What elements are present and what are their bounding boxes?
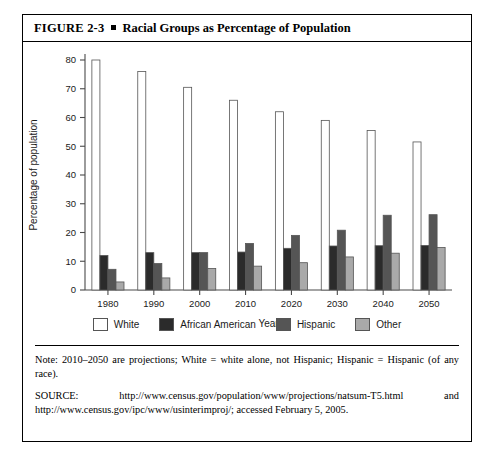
bar bbox=[230, 100, 238, 290]
source-paragraph: SOURCE: http://www.census.gov/population… bbox=[35, 389, 459, 417]
bar bbox=[192, 253, 200, 290]
chart-legend: WhiteAfrican AmericanHispanicOther bbox=[23, 318, 471, 331]
figure-title: Racial Groups as Percentage of Populatio… bbox=[122, 21, 350, 36]
x-tick-label: 2020 bbox=[281, 298, 302, 309]
x-tick-label: 1980 bbox=[97, 298, 118, 309]
x-tick-label: 2030 bbox=[327, 298, 348, 309]
bar bbox=[208, 268, 216, 290]
legend-swatch-icon bbox=[276, 318, 291, 331]
bar bbox=[154, 264, 162, 290]
bar bbox=[345, 257, 353, 290]
x-tick-label: 1990 bbox=[143, 298, 164, 309]
figure-header: FIGURE 2-3 Racial Groups as Percentage o… bbox=[23, 15, 471, 42]
legend-label: Other bbox=[376, 319, 401, 330]
bar bbox=[337, 230, 345, 290]
bar bbox=[138, 72, 146, 291]
x-tick-label: 2050 bbox=[418, 298, 439, 309]
bar bbox=[413, 142, 421, 290]
bar bbox=[116, 282, 124, 290]
bar bbox=[275, 112, 283, 290]
bar bbox=[429, 215, 437, 290]
legend-label: African American bbox=[180, 319, 256, 330]
x-tick-label: 2010 bbox=[235, 298, 256, 309]
bars-group bbox=[92, 60, 445, 290]
y-axis: 01020304050607080 bbox=[65, 54, 85, 295]
bar bbox=[184, 87, 192, 290]
legend-item-african-american: African American bbox=[159, 318, 256, 331]
y-tick-label: 60 bbox=[65, 112, 76, 123]
x-tick-label: 2000 bbox=[189, 298, 210, 309]
y-tick-label: 10 bbox=[65, 256, 76, 267]
y-tick-label: 70 bbox=[65, 83, 76, 94]
legend-item-other: Other bbox=[355, 318, 401, 331]
bar bbox=[383, 215, 391, 290]
note-paragraph: Note: 2010–2050 are projections; White =… bbox=[35, 353, 459, 381]
note-label: Note: bbox=[35, 354, 58, 365]
bar bbox=[367, 130, 375, 290]
bar bbox=[100, 256, 108, 291]
legend-item-hispanic: Hispanic bbox=[276, 318, 335, 331]
y-tick-label: 50 bbox=[65, 141, 76, 152]
legend-swatch-icon bbox=[93, 318, 108, 331]
legend-item-white: White bbox=[93, 318, 140, 331]
bar bbox=[246, 243, 254, 290]
x-axis: 19801990200020102020203020402050 bbox=[85, 290, 452, 309]
bar bbox=[238, 252, 246, 290]
legend-label: Hispanic bbox=[297, 319, 335, 330]
bar bbox=[200, 253, 208, 290]
square-bullet-icon bbox=[111, 25, 116, 30]
source-body: http://www.census.gov/population/www/pro… bbox=[35, 390, 459, 415]
y-tick-label: 30 bbox=[65, 198, 76, 209]
bar bbox=[162, 278, 170, 290]
bar bbox=[146, 253, 154, 290]
bar bbox=[291, 235, 299, 290]
figure-number: FIGURE 2-3 bbox=[34, 21, 104, 36]
note-body: 2010–2050 are projections; White = white… bbox=[35, 354, 459, 379]
y-tick-label: 0 bbox=[71, 284, 76, 295]
bar bbox=[283, 248, 291, 290]
bar bbox=[299, 263, 307, 290]
bar bbox=[391, 253, 399, 290]
y-tick-label: 40 bbox=[65, 169, 76, 180]
legend-swatch-icon bbox=[159, 318, 174, 331]
y-axis-title: Percentage of population bbox=[28, 119, 39, 230]
bar bbox=[254, 266, 262, 290]
x-tick-label: 2040 bbox=[373, 298, 394, 309]
bar bbox=[321, 120, 329, 290]
bar bbox=[329, 246, 337, 290]
bar-chart: 01020304050607080 1980199020002010202020… bbox=[23, 42, 470, 342]
notes-divider bbox=[35, 345, 459, 346]
y-tick-label: 80 bbox=[65, 54, 76, 65]
bar bbox=[375, 246, 383, 290]
y-tick-label: 20 bbox=[65, 227, 76, 238]
bar bbox=[437, 247, 445, 290]
bar bbox=[108, 269, 116, 290]
figure-container: FIGURE 2-3 Racial Groups as Percentage o… bbox=[22, 14, 472, 442]
legend-swatch-icon bbox=[355, 318, 370, 331]
bar bbox=[92, 60, 100, 290]
chart-area: 01020304050607080 1980199020002010202020… bbox=[23, 42, 471, 372]
bar bbox=[421, 245, 429, 290]
source-label: SOURCE: bbox=[35, 390, 79, 401]
legend-label: White bbox=[114, 319, 140, 330]
figure-notes: Note: 2010–2050 are projections; White =… bbox=[23, 345, 471, 417]
